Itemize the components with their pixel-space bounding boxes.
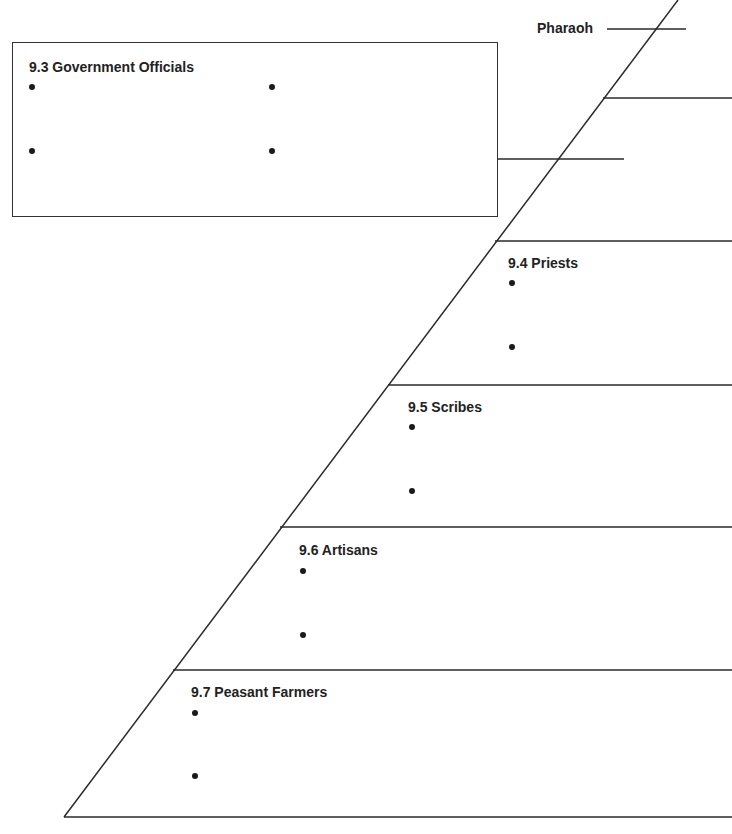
bullet-point xyxy=(29,148,35,154)
bullet-point xyxy=(192,773,198,779)
bullet-point xyxy=(409,424,415,430)
bullet-point xyxy=(269,84,275,90)
artisans-label: 9.6 Artisans xyxy=(299,542,378,558)
bullet-point xyxy=(300,632,306,638)
priests-label: 9.4 Priests xyxy=(508,255,578,271)
bullet-point xyxy=(269,148,275,154)
bullet-point xyxy=(300,568,306,574)
government-officials-label: 9.3 Government Officials xyxy=(29,59,194,75)
bullet-point xyxy=(192,710,198,716)
bullet-point xyxy=(509,280,515,286)
peasant-farmers-label: 9.7 Peasant Farmers xyxy=(191,684,327,700)
bullet-point xyxy=(509,344,515,350)
scribes-label: 9.5 Scribes xyxy=(408,399,482,415)
pharaoh-label: Pharaoh xyxy=(537,20,593,36)
bullet-point xyxy=(409,488,415,494)
bullet-point xyxy=(29,84,35,90)
